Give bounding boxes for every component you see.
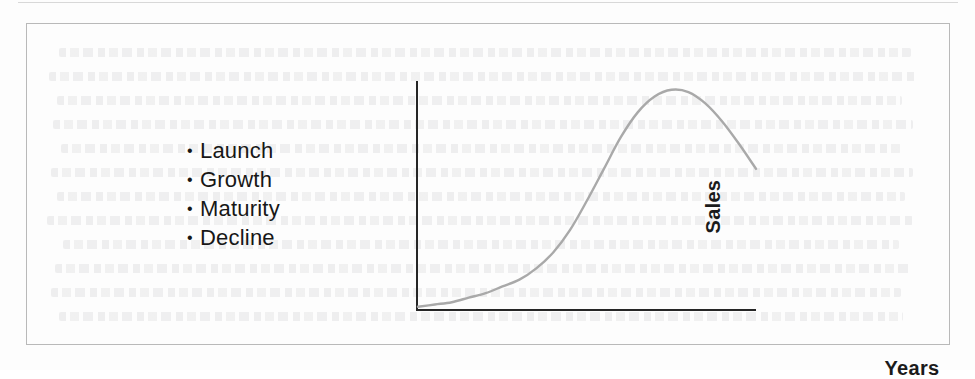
bullet-icon: •	[187, 136, 200, 165]
product-life-cycle-stage-list: •Launch •Growth •Maturity •Decline	[187, 136, 280, 252]
list-item: •Maturity	[187, 194, 280, 223]
figure-frame: •Launch •Growth •Maturity •Decline Sales…	[26, 23, 950, 345]
stage-label: Decline	[200, 225, 275, 250]
list-item: •Launch	[187, 136, 280, 165]
product-life-cycle-chart: Sales Years	[357, 69, 777, 344]
list-item: •Growth	[187, 165, 280, 194]
bullet-icon: •	[187, 165, 200, 194]
list-item: •Decline	[187, 223, 280, 252]
stage-label: Launch	[200, 138, 273, 163]
bullet-icon: •	[187, 223, 200, 252]
stage-label: Maturity	[200, 196, 280, 221]
x-axis-label: Years	[812, 357, 975, 379]
y-axis-label: Sales	[702, 194, 725, 234]
page-top-rule	[18, 2, 958, 3]
bullet-icon: •	[187, 194, 200, 223]
stage-label: Growth	[200, 167, 272, 192]
